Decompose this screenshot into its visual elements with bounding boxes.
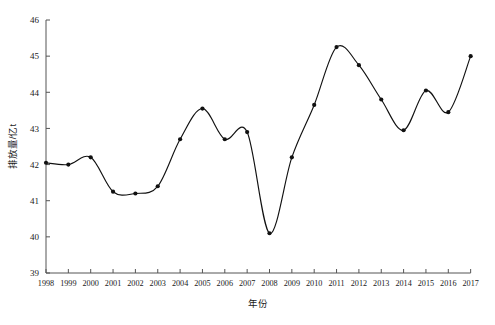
x-tick-label: 2015 [418, 279, 434, 288]
x-tick-label: 2002 [127, 279, 143, 288]
y-tick-label: 39 [30, 268, 40, 278]
x-tick-label: 2016 [440, 279, 456, 288]
y-tick-label: 43 [30, 124, 40, 134]
x-tick-label: 2011 [329, 279, 345, 288]
x-tick-label: 2013 [373, 279, 389, 288]
x-tick-label: 2017 [462, 279, 478, 288]
data-point-marker: 2011: 45.25 [334, 45, 338, 49]
chart-canvas: 3940414243444546 19981999200020012002200… [0, 0, 495, 325]
data-point-marker: 2006: 42.7 [223, 137, 227, 141]
x-tick-label: 2008 [261, 279, 277, 288]
x-tick-label: 2003 [150, 279, 166, 288]
data-point-marker: 2016: 43.45 [446, 110, 450, 114]
data-point-marker: 1998: 42.05 [44, 161, 48, 165]
y-tick-label: 45 [30, 51, 40, 61]
data-point-marker: 2009: 42.2 [290, 155, 294, 159]
data-point-marker: 2017: 45 [469, 54, 473, 58]
x-tick-label: 2010 [306, 279, 322, 288]
y-tick-label: 41 [30, 196, 39, 206]
data-point-marker: 2002: 41.2 [133, 191, 137, 195]
data-point-marker: 2008: 40.1 [267, 231, 271, 235]
y-axis-title: 排放量/亿t [7, 124, 18, 170]
data-point-marker: 1999: 42 [66, 162, 70, 166]
data-point-marker: 2001: 41.25 [111, 190, 115, 194]
x-tick-label: 2012 [351, 279, 367, 288]
emissions-line-chart: 3940414243444546 19981999200020012002200… [0, 0, 495, 325]
y-tick-label: 40 [30, 232, 40, 242]
x-tick-label: 2005 [194, 279, 210, 288]
data-point-marker: 2014: 42.95 [402, 128, 406, 132]
data-point-marker: 2005: 43.55 [200, 106, 204, 110]
x-tick-label: 2004 [172, 279, 188, 288]
x-tick-label: 2000 [83, 279, 99, 288]
x-axis-title: 年份 [248, 298, 268, 309]
data-point-marker: 2010: 43.65 [312, 103, 316, 107]
y-tick-label: 46 [30, 15, 40, 25]
data-point-marker: 2013: 43.8 [379, 97, 383, 101]
y-tick-label: 44 [30, 88, 40, 98]
x-tick-label: 2006 [217, 279, 233, 288]
data-point-marker: 2012: 44.75 [357, 63, 361, 67]
data-point-marker: 2007: 42.9 [245, 130, 249, 134]
data-point-marker: 2003: 41.4 [156, 184, 160, 188]
data-point-marker: 2015: 44.05 [424, 88, 428, 92]
data-point-marker: 2000: 42.2 [89, 155, 93, 159]
x-tick-label: 2014 [395, 279, 411, 288]
data-point-marker: 2004: 42.7 [178, 137, 182, 141]
x-tick-label: 2007 [239, 279, 255, 288]
x-tick-label: 2001 [105, 279, 121, 288]
x-tick-label: 1999 [60, 279, 76, 288]
x-tick-label: 2009 [284, 279, 300, 288]
x-tick-label: 1998 [38, 279, 54, 288]
y-tick-label: 42 [30, 160, 39, 170]
